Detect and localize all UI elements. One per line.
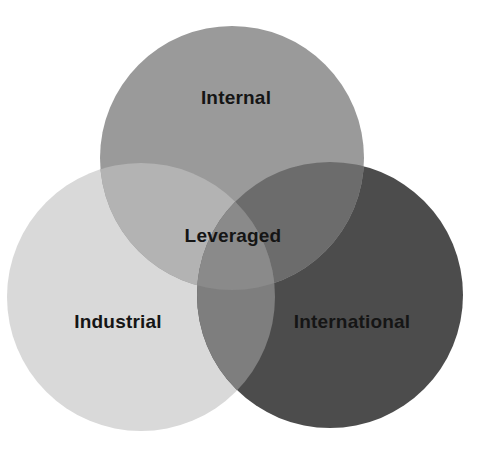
label-leveraged: Leveraged [185,225,282,247]
label-industrial: Industrial [74,311,162,333]
label-internal: Internal [201,87,271,109]
label-international: International [294,311,411,333]
